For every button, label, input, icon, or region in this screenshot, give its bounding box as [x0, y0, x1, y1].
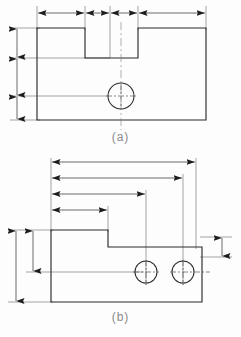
- part-outline-a: [37, 28, 206, 120]
- figure-b-extension-lines-left: [8, 230, 144, 302]
- figure-a-extension-lines-top: [37, 6, 206, 58]
- figure-b: [8, 158, 232, 302]
- technical-drawing-svg: [0, 0, 241, 337]
- figure-caption-b: (b): [0, 310, 241, 324]
- figure-b-vertical-dimensions-left: [16, 231, 33, 301]
- figure-a-extension-lines-left: [10, 28, 110, 120]
- figure-b-vertical-dimension-right: [200, 237, 232, 257]
- drawing-canvas: (a) (b): [0, 0, 241, 337]
- figure-a: [10, 6, 206, 130]
- part-outline-b: [51, 230, 202, 302]
- figure-b-baseline-dimensions: [52, 162, 195, 210]
- figure-caption-a: (a): [0, 130, 241, 144]
